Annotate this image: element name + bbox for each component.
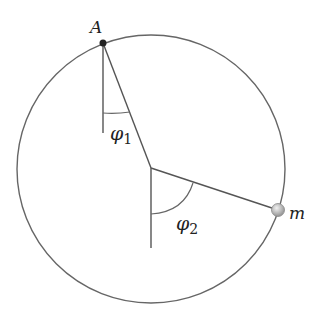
rod-1 xyxy=(103,43,151,168)
angle-arc-1 xyxy=(103,112,130,113)
label-phi1: φ1 xyxy=(110,122,132,147)
rod-2 xyxy=(151,168,278,210)
label-m: m xyxy=(289,203,305,223)
angle-arc-2 xyxy=(151,183,193,214)
label-phi2: φ2 xyxy=(176,212,198,237)
mass-ball xyxy=(272,204,285,217)
point-a-dot xyxy=(100,40,107,47)
label-a: A xyxy=(88,17,102,37)
pendulum-diagram: A m φ1 φ2 xyxy=(0,0,324,321)
